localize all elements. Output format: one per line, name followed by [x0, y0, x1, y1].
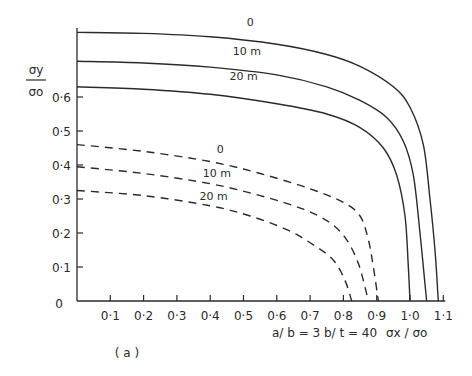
curve-annotation: 20 m [229, 70, 257, 83]
y-axis-label-numerator: σy [29, 63, 44, 77]
y-tick-label: 0·5 [52, 125, 71, 139]
x-tick-label: 0·7 [301, 309, 320, 323]
x-axis-label: σx / σo [386, 326, 427, 340]
curve-annotation: 0 [217, 143, 224, 156]
curve-annotation: 10 m [203, 167, 231, 180]
dashed-curve-20m [77, 191, 352, 302]
y-tick-label: 0·3 [52, 193, 71, 207]
curve-annotation: 0 [247, 16, 254, 29]
x-tick-label: 0·4 [201, 309, 220, 323]
panel-label: ( a ) [115, 346, 139, 360]
y-axis-label-denominator: σo [29, 85, 44, 99]
dashed-curve-10m [77, 167, 368, 301]
parameters-note: a/ b = 3 b/ t = 40 [272, 326, 377, 340]
chart-canvas: 0·10·20·30·40·50·60·70·80·91·01·100·10·2… [0, 0, 472, 376]
x-tick-label: 0·9 [367, 309, 386, 323]
y-tick-label: 0·4 [52, 159, 71, 173]
curves [77, 32, 438, 301]
x-tick-label: 0·8 [334, 309, 353, 323]
x-tick-label: 0·3 [167, 309, 186, 323]
x-tick-label: 1·1 [434, 309, 453, 323]
x-tick-label: 0·5 [234, 309, 253, 323]
y-tick-label: 0·2 [52, 227, 71, 241]
x-tick-label: 0·1 [101, 309, 120, 323]
x-tick-label: 0·6 [267, 309, 286, 323]
y-tick-label: 0·6 [52, 91, 71, 105]
y-tick-label: 0·1 [52, 261, 71, 275]
x-tick-label: 1·0 [400, 309, 419, 323]
x-tick-label: 0·2 [134, 309, 153, 323]
curve-annotation: 20 m [199, 190, 227, 203]
solid-curve-10m [77, 61, 427, 301]
y-tick-label: 0 [55, 297, 63, 311]
curve-annotation: 10 m [233, 45, 261, 58]
solid-curve-20m [77, 87, 410, 301]
